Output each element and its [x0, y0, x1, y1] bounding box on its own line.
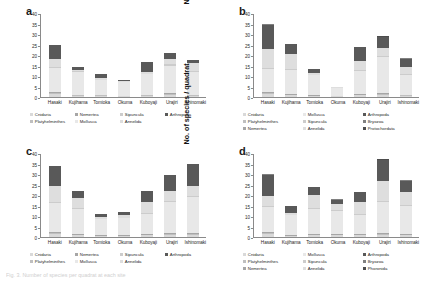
- stacked-bar[interactable]: [49, 45, 61, 97]
- legend-label: Sipuncula: [308, 258, 327, 265]
- stacked-bar[interactable]: [354, 47, 366, 97]
- legend-label: Annelida: [125, 258, 142, 265]
- legend-label: Cnidaria: [248, 251, 264, 258]
- legend-label: Sipuncula: [308, 118, 327, 125]
- bar-column: [302, 14, 325, 97]
- bar-segment: [118, 96, 130, 97]
- bar-segment: [95, 219, 107, 235]
- y-tick-mark: [38, 154, 40, 155]
- bar-segment: [187, 197, 199, 233]
- stacked-bar[interactable]: [400, 180, 412, 237]
- stacked-bar[interactable]: [308, 69, 320, 97]
- bar-segment: [285, 54, 297, 70]
- x-axis-label: Urajiri: [160, 100, 183, 105]
- y-tick-label: 5: [247, 85, 250, 90]
- bar-segment: [164, 66, 176, 93]
- y-tick-label: 40: [32, 12, 37, 17]
- x-axis-label: Kuboyaji: [350, 100, 373, 105]
- bar-segment: [308, 235, 320, 237]
- bar-column: [302, 154, 325, 237]
- bar-segment: [141, 191, 153, 203]
- bar-segment: [285, 236, 297, 237]
- bar-group-c: [43, 154, 205, 237]
- bar-segment: [262, 234, 274, 237]
- bar-segment: [95, 80, 107, 95]
- y-tick-label: 10: [32, 215, 37, 220]
- bar-segment: [354, 71, 366, 94]
- bar-segment: [49, 234, 61, 237]
- x-axis-label: Urajiri: [373, 240, 396, 245]
- bar-segment: [377, 235, 389, 237]
- legend-label: Mollusca: [80, 258, 97, 265]
- legend-swatch-icon: [75, 260, 78, 263]
- legend-item: Sipuncula: [303, 118, 363, 125]
- panel-c: c No. of species / quadrat 0510152025303…: [0, 140, 213, 280]
- y-tick-label: 20: [32, 194, 37, 199]
- stacked-bar[interactable]: [400, 58, 412, 97]
- stacked-bar[interactable]: [377, 36, 389, 97]
- stacked-bar[interactable]: [118, 212, 130, 237]
- stacked-bar[interactable]: [164, 175, 176, 237]
- y-tick-label: 35: [32, 22, 37, 27]
- bar-segment: [49, 59, 61, 66]
- bar-segment: [262, 49, 274, 68]
- bar-segment: [187, 164, 199, 186]
- bar-segment: [49, 68, 61, 92]
- legend-swatch-icon: [243, 260, 246, 263]
- bar-segment: [164, 175, 176, 191]
- bar-segment: [49, 203, 61, 232]
- stacked-bar[interactable]: [164, 53, 176, 97]
- bar-column: [349, 14, 372, 97]
- stacked-bar[interactable]: [141, 62, 153, 97]
- stacked-bar[interactable]: [331, 199, 343, 237]
- stacked-bar[interactable]: [95, 74, 107, 97]
- y-tick-mark: [38, 88, 40, 89]
- y-tick-mark: [251, 77, 253, 78]
- bar-segment: [331, 88, 343, 95]
- stacked-bar[interactable]: [72, 67, 84, 97]
- bar-column: [372, 154, 395, 237]
- legend-item: Annelida: [120, 258, 165, 265]
- stacked-bar[interactable]: [262, 174, 274, 237]
- legend-label: Phoronida: [368, 265, 388, 272]
- y-tick-label: 30: [32, 33, 37, 38]
- y-tick-label: 0: [34, 236, 37, 241]
- bar-segment: [72, 72, 84, 95]
- stacked-bar[interactable]: [262, 24, 274, 97]
- y-tick-label: 20: [245, 54, 250, 59]
- stacked-bar[interactable]: [377, 159, 389, 237]
- bar-segment: [354, 95, 366, 97]
- bar-column: [395, 154, 418, 237]
- stacked-bar[interactable]: [331, 87, 343, 97]
- y-tick-mark: [38, 14, 40, 15]
- stacked-bar[interactable]: [187, 164, 199, 237]
- legend-swatch-icon: [363, 120, 366, 123]
- stacked-bar[interactable]: [118, 80, 130, 97]
- x-axis-label: Hasaki: [256, 100, 279, 105]
- stacked-bar[interactable]: [49, 166, 61, 237]
- y-tick-mark: [251, 228, 253, 229]
- legend-swatch-icon: [363, 127, 366, 130]
- bar-segment: [308, 195, 320, 208]
- x-axis-label: Okuma: [326, 100, 349, 105]
- stacked-bar[interactable]: [285, 206, 297, 237]
- stacked-bar[interactable]: [72, 191, 84, 237]
- legend-swatch-icon: [243, 120, 246, 123]
- x-axis-labels-d: HasakiKujihamaTomiokaOkumaKuboyajiUrajir…: [256, 240, 420, 245]
- legend-item: Arthropoda: [165, 251, 210, 258]
- y-tick-mark: [251, 35, 253, 36]
- stacked-bar[interactable]: [354, 192, 366, 237]
- legend-label: Arthropoda: [368, 111, 389, 118]
- stacked-bar[interactable]: [308, 187, 320, 237]
- bar-column: [43, 14, 66, 97]
- y-tick-label: 0: [34, 96, 37, 101]
- bar-column: [325, 154, 348, 237]
- stacked-bar[interactable]: [285, 44, 297, 98]
- y-tick-label: 20: [245, 194, 250, 199]
- stacked-bar[interactable]: [95, 214, 107, 237]
- bar-segment: [354, 202, 366, 215]
- legend-item: Platyhelminthes: [30, 118, 75, 125]
- x-axis-labels-b: HasakiKujihamaTomiokaOkumaKuboyajiUrajir…: [256, 100, 420, 105]
- stacked-bar[interactable]: [141, 191, 153, 237]
- bar-segment: [262, 207, 274, 233]
